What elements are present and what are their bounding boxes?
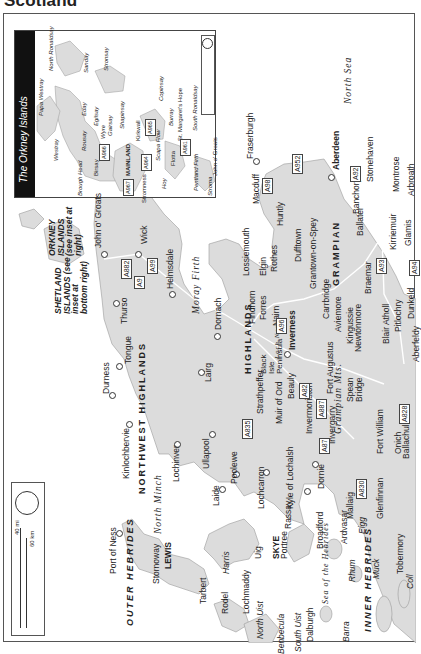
road-a952: A952 (292, 154, 303, 174)
town-lochmaddy: Lochmaddy (242, 570, 251, 614)
town-john-o-groats: John o' Groats (94, 193, 103, 248)
inset-label-rousay: Rousay (81, 131, 87, 151)
region-lewis: LEWIS (164, 542, 173, 569)
inset-road-a965: A965 (145, 119, 156, 136)
town-dot (126, 421, 133, 428)
note-orkney: ORKNEY ISLANDS (see inset at right) (48, 202, 82, 256)
town-dot (135, 251, 142, 258)
inset-label-mainland: MAINLAND (125, 144, 131, 176)
town-fraserburgh: Fraserburgh (246, 113, 255, 159)
inset-label-eday: Eday (81, 102, 87, 116)
town-dot (116, 363, 123, 370)
town-rothes: Rothes (270, 245, 279, 272)
town-arbroath: Arbroath (407, 163, 416, 196)
inset-scale-box (201, 35, 215, 115)
region-outer-hebrides: OUTER HEBRIDES (126, 517, 135, 626)
region-inner-hebrides: INNER HEBRIDES (364, 527, 373, 632)
town-dot (328, 174, 335, 181)
inset-label-hoy: Hoy (161, 178, 167, 189)
town-fort-augustus: Fort Augustus (326, 342, 335, 394)
town-dufftown: Dufftown (294, 229, 303, 262)
town-north-uist: North Uist (256, 601, 265, 639)
town-braemar: Braemar (364, 261, 373, 294)
inset-label-papa-westray: Papa Westray (38, 78, 44, 116)
town-durness: Durness (102, 362, 111, 394)
town-dot (284, 351, 291, 358)
town-rodel: Rodel (221, 592, 230, 614)
inset-label-north-ronaldsay: North Ronaldsay (48, 26, 54, 71)
town-dot (253, 158, 260, 165)
town-portree: Portree (280, 531, 289, 559)
orkney-inset: The Orkney Islands North Ronaldsay Sanda… (14, 30, 216, 198)
inset-label-kirkwall: Kirkwall (135, 120, 141, 141)
town-dot (214, 333, 221, 340)
town-blair-atholl: Blair Atholl (382, 304, 391, 344)
town-dunkeld: Dunkeld (407, 288, 416, 319)
town-uig: Uig (254, 546, 263, 559)
label-north-sea: North Sea (344, 57, 354, 104)
town-rassay: Rassay (284, 501, 293, 529)
town-lairg: Lairg (204, 363, 213, 382)
main-scale-box: 40 mi 60 km (11, 482, 45, 636)
inset-label-copinsay: Copinsay (158, 76, 164, 101)
road-a87: A87 (319, 438, 330, 454)
town-inverness: Inverness (288, 310, 297, 350)
inset-label-stromness: Stromness (141, 174, 147, 203)
town-fort-william: Fort William (376, 409, 385, 454)
town-newtonmore: Newtonmore (354, 304, 363, 352)
inset-label-stroma: Stroma (207, 177, 213, 196)
scale-bar-mi (20, 528, 21, 628)
road-a887: A887 (316, 399, 327, 419)
town-aberdeen: Aberdeen (332, 131, 341, 170)
road-a98: A98 (262, 178, 273, 194)
town-macduff: Macduff (252, 174, 261, 204)
road-a830: A830 (356, 479, 367, 499)
town-thurso: Thurso (120, 298, 129, 324)
town-wick: Wick (140, 226, 149, 244)
page-title: Scotland (4, 0, 77, 11)
town-glenfinnan: Glenfinnan (376, 478, 385, 519)
town-benbecula: Benbecula (277, 614, 286, 654)
town-spean-bridge: Spean Bridge (346, 376, 363, 402)
town-ullapool: Ullapool (202, 438, 211, 469)
road-a99: A99 (147, 258, 158, 274)
town-dot (101, 251, 108, 258)
inset-road-a967: A967 (123, 179, 134, 196)
town-muir-of-ord: Muir of Ord (275, 381, 284, 424)
road-a882: A882 (121, 259, 132, 279)
road-a9: A9 (134, 276, 145, 289)
town-ardvasar: Ardvasar (340, 510, 349, 544)
inset-road-a966: A966 (99, 144, 110, 161)
inset-label-stronsay: Stronsay (103, 47, 109, 71)
town-findhorn: Findhorn (248, 290, 257, 324)
town-dornach: Dornach (214, 298, 223, 330)
inset-label-pentland-firth: Pentland Firth (193, 154, 199, 191)
town-tongue: Tongue (124, 336, 133, 364)
region-northwest-highlands: NORTHWEST HIGHLANDS (138, 342, 147, 494)
road-a82: A82 (299, 383, 310, 399)
town-kinlochbervie: Kinlochbervie (122, 428, 131, 479)
inset-label-brough-head: Brough Head (77, 161, 83, 196)
town-south-uist: South Uist (294, 613, 303, 652)
town-strathpeffer: Strathpeffer (256, 370, 265, 414)
town-glamis: Glamis (404, 220, 413, 246)
town-grantown-on-spey: Grantown-on-Spey (309, 218, 318, 289)
town-dalburgh: Dalburgh (306, 608, 315, 643)
town-laide: Laide (212, 485, 221, 506)
scale-label-mi: 40 mi (14, 520, 20, 535)
inset-label-egilsay: Egilsay (93, 107, 99, 126)
town-tarbert: Tarbert (199, 578, 208, 604)
inset-label-wyre: Wyre (100, 125, 106, 139)
compass-icon (15, 491, 39, 515)
inset-label-westray: Westray (53, 139, 59, 161)
inset-label-birsay: Birsay (93, 159, 99, 176)
town-eigg: Eigg (358, 517, 367, 534)
town-lossiemouth: Lossiemouth (242, 228, 251, 276)
road-a828: A828 (399, 404, 410, 424)
scale-bar-km (26, 538, 27, 628)
label-moray-firth: Moray Firth (192, 256, 202, 314)
town-pitlochry: Pitlochry (394, 299, 403, 332)
town-montrose: Montrose (392, 157, 401, 192)
town-carrbridge: Carrbridge (322, 279, 331, 319)
road-a93: A93 (376, 258, 387, 274)
